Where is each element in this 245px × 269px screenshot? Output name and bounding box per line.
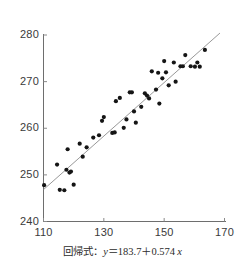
caption-intercept: 183.7 (118, 246, 142, 257)
x-tick-label: 150 (149, 226, 179, 238)
scatter-point (174, 80, 178, 84)
y-axis-ticks (44, 35, 48, 222)
x-axis-ticks (44, 218, 225, 222)
regression-equation-caption: 回帰式：y＝183.7＋0.574 x (0, 243, 245, 258)
scatter-point (91, 135, 95, 139)
scatter-point (193, 65, 197, 69)
scatter-point (150, 69, 154, 73)
scatter-point (183, 53, 187, 57)
scatter-point (118, 96, 122, 100)
scatter-point (162, 59, 166, 63)
caption-equals: ＝ (108, 246, 118, 257)
scatter-point (160, 76, 164, 80)
scatter-point (66, 147, 70, 151)
y-tick-label: 250 (13, 168, 39, 180)
scatter-point (156, 71, 160, 75)
y-tick-label: 280 (13, 28, 39, 40)
regression-line (44, 33, 220, 190)
caption-slope: 0.574 (151, 246, 175, 257)
scatter-point (72, 183, 76, 187)
x-tick-label: 110 (29, 226, 59, 238)
caption-plus: ＋ (141, 246, 151, 257)
scatter-point (181, 64, 185, 68)
scatter-point (132, 109, 136, 113)
caption-label: 回帰式： (63, 246, 103, 257)
scatter-point (81, 155, 85, 159)
scatter-point (62, 188, 66, 192)
scatter-point (172, 60, 176, 64)
scatter-point (134, 121, 138, 125)
scatter-point (154, 87, 158, 91)
y-tick-label: 260 (13, 121, 39, 133)
scatter-point (167, 83, 171, 87)
scatter-point (42, 183, 46, 187)
x-tick-label: 170 (210, 226, 240, 238)
scatter-point (85, 145, 89, 149)
scatter-point (58, 188, 62, 192)
regression-line-segment (44, 33, 220, 190)
y-tick-label: 270 (13, 75, 39, 87)
scatter-point (203, 48, 207, 52)
scatter-point (100, 119, 104, 123)
scatter-point (78, 142, 82, 146)
scatter-point (69, 170, 73, 174)
scatter-point (198, 65, 202, 69)
scatter-point (139, 105, 143, 109)
caption-x-variable: x (177, 246, 182, 257)
scatter-point (114, 99, 118, 103)
data-points (42, 48, 207, 193)
scatter-point (124, 117, 128, 121)
scatter-point (97, 133, 101, 137)
x-tick-label: 130 (89, 226, 119, 238)
scatter-point (122, 126, 126, 130)
scatter-point (164, 70, 168, 74)
scatter-point (102, 115, 106, 119)
scatter-point (157, 101, 161, 105)
scatter-point (130, 90, 134, 94)
regression-scatter-figure: 240250260270280 110130150170 回帰式：y＝183.7… (0, 0, 245, 269)
scatter-point (113, 130, 117, 134)
scatter-point (195, 60, 199, 64)
scatter-point (55, 163, 59, 167)
scatter-point (147, 96, 151, 100)
scatter-point (189, 64, 193, 68)
